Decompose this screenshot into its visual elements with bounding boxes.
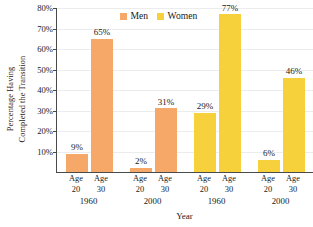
bars-layer: 9%65%2%31%29%77%6%46% — [57, 8, 313, 172]
y-axis-title-line-1: Percentage Having — [5, 19, 17, 179]
x-axis-tick-label: Age20 — [261, 174, 275, 195]
legend-entry[interactable]: Women — [157, 11, 197, 21]
bar-value-label: 46% — [277, 66, 311, 76]
legend-label: Women — [168, 11, 198, 21]
bar[interactable] — [130, 168, 152, 172]
bar-value-label: 31% — [149, 97, 183, 107]
x-axis-tick-label-line-2: 20 — [69, 185, 83, 196]
y-axis-tick-label: 50% — [22, 65, 53, 74]
bar-value-label: 29% — [188, 101, 222, 111]
y-axis-tick-label: 80% — [22, 4, 53, 13]
y-axis-tick-labels: 10%20%30%40%50%60%70%80% — [22, 0, 53, 227]
x-axis-group-labels: 1960200019602000 — [56, 196, 313, 210]
x-axis-tick-label: Age30 — [286, 174, 300, 195]
bar[interactable] — [258, 160, 280, 172]
bar[interactable] — [91, 39, 113, 172]
legend-label: Men — [131, 11, 149, 21]
y-axis-tick-label: 40% — [22, 86, 53, 95]
x-axis-tick-label-line-1: Age — [197, 174, 211, 185]
x-axis-tick-label: Age20 — [69, 174, 83, 195]
x-axis-tick-label-line-2: 30 — [94, 185, 108, 196]
y-axis-tick-label: 30% — [22, 106, 53, 115]
x-axis-group-label: 1960 — [80, 196, 98, 207]
bar-chart: Percentage Having Completed the Transiti… — [0, 0, 313, 227]
legend-entry[interactable]: Men — [120, 11, 148, 21]
x-axis-tick-label-line-2: 20 — [261, 185, 275, 196]
y-axis-tick-label: 60% — [22, 45, 53, 54]
x-axis-tick-label-line-1: Age — [222, 174, 236, 185]
bar-value-label: 77% — [213, 3, 247, 13]
y-axis-tick-label: 20% — [22, 127, 53, 136]
plot-area: 9%65%2%31%29%77%6%46% — [56, 8, 313, 173]
bar[interactable] — [194, 113, 216, 172]
x-axis-tick-label: Age20 — [197, 174, 211, 195]
x-axis-tick-label-line-2: 20 — [133, 185, 147, 196]
x-axis-tick-label: Age20 — [133, 174, 147, 195]
legend-swatch-icon — [157, 13, 164, 20]
x-axis-tick-label-line-1: Age — [94, 174, 108, 185]
x-axis-tick-label-line-2: 20 — [197, 185, 211, 196]
y-axis-tick-label: 70% — [22, 24, 53, 33]
bar-value-label: 9% — [60, 142, 94, 152]
bar[interactable] — [66, 154, 88, 172]
x-axis-tick-label-line-1: Age — [69, 174, 83, 185]
bar[interactable] — [219, 14, 241, 172]
x-axis-tick-label: Age30 — [94, 174, 108, 195]
x-axis-tick-label-line-1: Age — [261, 174, 275, 185]
bar-value-label: 65% — [85, 27, 119, 37]
bar-value-label: 2% — [124, 156, 158, 166]
x-axis-group-label: 2000 — [272, 196, 290, 207]
bar-value-label: 6% — [252, 148, 286, 158]
x-axis-tick-label-line-2: 30 — [158, 185, 172, 196]
y-axis-tick-label: 10% — [22, 147, 53, 156]
bar[interactable] — [283, 78, 305, 172]
x-axis-title: Year — [56, 211, 313, 222]
x-axis-tick-label: Age30 — [222, 174, 236, 195]
x-axis-tick-label-line-1: Age — [133, 174, 147, 185]
legend: MenWomen — [118, 10, 199, 22]
x-axis-tick-label-line-2: 30 — [222, 185, 236, 196]
x-axis-group-label: 1960 — [208, 196, 226, 207]
x-axis-group-label: 2000 — [144, 196, 162, 207]
x-axis-tick-label-line-2: 30 — [286, 185, 300, 196]
legend-swatch-icon — [120, 13, 127, 20]
x-axis-tick-label-line-1: Age — [158, 174, 172, 185]
x-axis-tick-label: Age30 — [158, 174, 172, 195]
x-axis-tick-label-line-1: Age — [286, 174, 300, 185]
bar[interactable] — [155, 108, 177, 172]
